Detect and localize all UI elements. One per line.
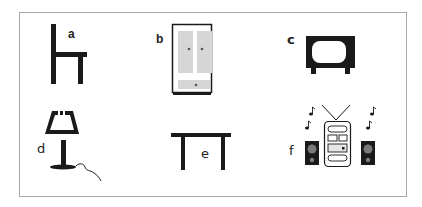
illustrations <box>0 0 422 207</box>
television-icon <box>306 36 355 74</box>
label-d: d <box>37 142 45 155</box>
lamp-icon <box>45 111 101 181</box>
label-c: c <box>287 33 295 46</box>
wardrobe-icon <box>173 25 213 96</box>
label-f: f <box>289 144 294 157</box>
stereo-icon <box>305 105 376 167</box>
speaker-right-icon <box>361 141 375 165</box>
speaker-left-icon <box>305 141 319 165</box>
label-e: e <box>201 147 209 160</box>
label-b: b <box>156 33 163 45</box>
label-a: a <box>68 28 75 40</box>
